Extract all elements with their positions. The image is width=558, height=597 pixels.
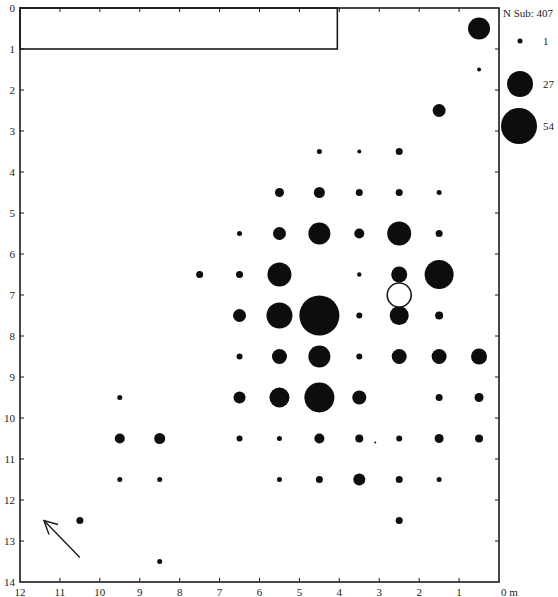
data-point <box>396 517 403 524</box>
x-tick-label: 12 <box>15 586 26 597</box>
x-tick-label: 5 <box>297 586 303 597</box>
legend-label: 54 <box>543 120 555 132</box>
y-tick-label: 9 <box>10 371 16 383</box>
y-tick-label: 5 <box>10 207 16 219</box>
x-tick-label: 7 <box>217 586 223 597</box>
legend-title: N Sub: 407 <box>503 7 554 19</box>
x-tick-label: 2 <box>416 586 422 597</box>
x-tick-label: 4 <box>337 586 343 597</box>
data-point <box>396 476 403 483</box>
x-tick-label: 0 m <box>501 586 518 597</box>
data-point <box>396 189 403 196</box>
data-point <box>277 477 282 482</box>
data-point <box>396 436 402 442</box>
data-point <box>266 303 292 329</box>
data-point <box>277 436 282 441</box>
data-point <box>435 434 444 443</box>
data-point <box>236 271 243 278</box>
distribution-plan-chart: 1211109876543210 m 01234567891011121314 … <box>0 0 558 597</box>
data-point <box>299 296 339 336</box>
data-point <box>475 393 484 402</box>
data-point <box>269 388 289 408</box>
data-point <box>154 433 165 444</box>
data-point <box>317 149 322 154</box>
plot-frame <box>20 8 499 582</box>
x-tick-label: 8 <box>177 586 183 597</box>
data-point <box>308 223 330 245</box>
data-point <box>392 349 407 364</box>
legend-symbol <box>518 39 523 44</box>
arrow-shaft <box>44 521 80 558</box>
data-point <box>354 229 364 239</box>
data-point <box>432 349 447 364</box>
data-point <box>157 559 162 564</box>
data-point <box>433 104 446 117</box>
outlined-area-rectangle <box>20 8 337 49</box>
y-tick-label: 12 <box>4 494 15 506</box>
data-point <box>234 392 246 404</box>
x-tick-label: 10 <box>94 586 106 597</box>
y-axis: 01234567891011121314 <box>4 2 499 588</box>
open-circle <box>387 283 411 307</box>
legend: N Sub: 40712754 <box>501 7 555 144</box>
data-point <box>233 309 246 322</box>
x-tick-label: 9 <box>137 586 143 597</box>
x-tick-label: 11 <box>55 586 66 597</box>
y-tick-label: 11 <box>4 453 15 465</box>
data-point <box>117 477 122 482</box>
data-point <box>352 391 366 405</box>
open-circle-marker <box>387 283 411 307</box>
x-axis: 1211109876543210 m <box>15 8 519 597</box>
legend-label: 1 <box>543 35 549 47</box>
north-arrow-icon <box>44 521 80 558</box>
outlined-area <box>20 8 337 49</box>
y-tick-label: 0 <box>10 2 16 14</box>
y-tick-label: 13 <box>4 535 16 547</box>
data-point <box>357 150 361 154</box>
data-point <box>468 18 490 40</box>
data-point <box>396 148 403 155</box>
legend-label: 27 <box>543 78 555 90</box>
data-point <box>196 271 203 278</box>
data-point <box>436 394 443 401</box>
data-point <box>314 187 325 198</box>
data-point <box>390 306 409 325</box>
y-tick-label: 1 <box>10 43 16 55</box>
data-point <box>115 434 125 444</box>
data-point <box>273 227 286 240</box>
data-point <box>437 190 442 195</box>
data-point <box>387 222 411 246</box>
data-point <box>374 442 376 444</box>
data-point <box>76 517 83 524</box>
data-point <box>308 346 330 368</box>
x-tick-label: 1 <box>456 586 462 597</box>
data-point <box>237 354 243 360</box>
data-point <box>117 395 122 400</box>
data-point <box>157 477 162 482</box>
data-point <box>435 312 443 320</box>
legend-symbol <box>501 108 537 144</box>
data-point <box>237 231 242 236</box>
y-tick-label: 6 <box>10 248 16 260</box>
data-point <box>272 349 287 364</box>
data-point <box>356 189 363 196</box>
data-point <box>391 267 407 283</box>
y-tick-label: 7 <box>10 289 16 301</box>
data-point <box>237 436 243 442</box>
data-point <box>471 349 487 365</box>
data-point <box>353 474 365 486</box>
data-point <box>437 477 442 482</box>
data-point <box>267 263 291 287</box>
y-tick-label: 3 <box>10 125 16 137</box>
y-tick-label: 2 <box>10 84 16 96</box>
data-point <box>356 354 362 360</box>
plot-border <box>20 8 499 582</box>
data-point <box>477 68 481 72</box>
data-point <box>314 434 324 444</box>
data-point <box>357 272 361 276</box>
data-point <box>436 230 443 237</box>
data-point <box>304 383 334 413</box>
data-point <box>425 260 454 289</box>
data-point <box>355 435 363 443</box>
data-points <box>76 18 490 565</box>
